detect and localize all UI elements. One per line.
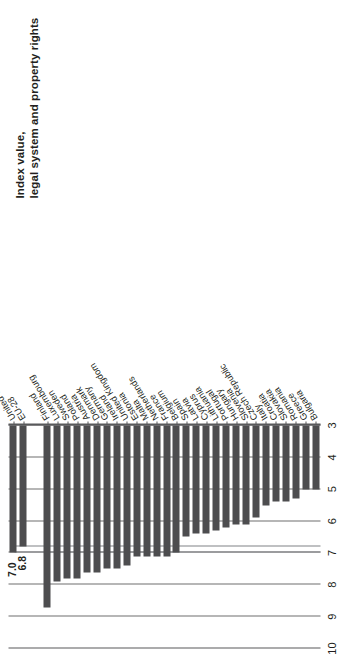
category-tick <box>315 421 316 424</box>
bar-denmark <box>93 425 100 572</box>
bar-latvia <box>192 425 199 533</box>
bar-bulgaria <box>312 425 319 489</box>
category-tick <box>146 421 147 424</box>
category-tick <box>305 421 306 424</box>
bar-portugal <box>222 425 229 527</box>
bar-greece <box>302 425 309 489</box>
category-tick <box>236 421 237 424</box>
category-tick <box>275 421 276 424</box>
chart-canvas: Index value, legal system and property r… <box>0 0 342 671</box>
category-tick <box>206 421 207 424</box>
bar-czech-republic <box>252 425 259 517</box>
category-tick <box>216 421 217 424</box>
category-tick <box>136 421 137 424</box>
bar-spain <box>182 425 189 537</box>
bar-slovenia <box>242 425 249 524</box>
tick-label-6: 6 <box>325 509 337 533</box>
tick-label-10: 10 <box>325 636 337 660</box>
category-tick <box>226 421 227 424</box>
category-tick <box>23 421 24 424</box>
category-tick <box>77 421 78 424</box>
bar-estonia <box>133 425 140 556</box>
bar-romania <box>292 425 299 498</box>
category-tick <box>126 421 127 424</box>
bar-united-kingdom <box>123 425 130 565</box>
bar-netherlands <box>153 425 160 556</box>
axis-title: Index value, legal system and property r… <box>12 8 40 198</box>
category-tick <box>265 421 266 424</box>
tick-label-3: 3 <box>325 413 337 437</box>
bar-eu-28 <box>19 425 26 546</box>
axis-title-line-2: legal system and property rights <box>26 8 40 198</box>
gridline-10 <box>8 647 320 648</box>
tick-label-7: 7 <box>325 540 337 564</box>
bar-germany <box>103 425 110 568</box>
tick-label-4: 4 <box>325 445 337 469</box>
bar-united-states <box>9 425 16 552</box>
category-tick <box>67 421 68 424</box>
bar-ireland <box>113 425 120 568</box>
gridline-8 <box>8 583 320 584</box>
tick-label-8: 8 <box>325 572 337 596</box>
category-tick <box>285 421 286 424</box>
bar-finland <box>43 425 50 607</box>
category-tick <box>176 421 177 424</box>
bar-belgium <box>172 425 179 552</box>
rotated-chart-stage: Index value, legal system and property r… <box>0 0 342 671</box>
category-tick <box>246 421 247 424</box>
category-tick <box>87 421 88 424</box>
category-tick <box>13 421 14 424</box>
category-tick <box>116 421 117 424</box>
category-tick <box>156 421 157 424</box>
gridline-9 <box>8 615 320 616</box>
bar-lithuania <box>212 425 219 530</box>
plot-area: Index value, legal system and property r… <box>0 0 342 671</box>
bar-austria <box>83 425 90 572</box>
bar-hungary <box>232 425 239 524</box>
tick-label-5: 5 <box>325 477 337 501</box>
bar-slovakia <box>282 425 289 501</box>
category-tick <box>166 421 167 424</box>
bar-poland <box>73 425 80 578</box>
category-tick <box>106 421 107 424</box>
category-tick <box>255 421 256 424</box>
category-tick <box>57 421 58 424</box>
category-tick <box>186 421 187 424</box>
category-axis <box>8 424 320 426</box>
bar-croatia <box>272 425 279 501</box>
value-label-6.8: 6.8 <box>15 555 27 570</box>
category-tick <box>47 421 48 424</box>
bar-italy <box>262 425 269 505</box>
bar-luxembourg <box>53 425 60 581</box>
category-tick <box>97 421 98 424</box>
bar-sweden <box>63 425 70 578</box>
category-tick <box>196 421 197 424</box>
axis-title-line-1: Index value, <box>13 131 25 198</box>
bar-cyprus <box>202 425 209 533</box>
bar-france <box>163 425 170 556</box>
tick-label-9: 9 <box>325 604 337 628</box>
category-tick <box>295 421 296 424</box>
bar-malta <box>143 425 150 556</box>
